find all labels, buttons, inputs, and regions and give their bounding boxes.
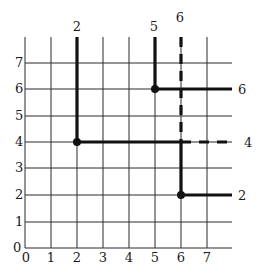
x-tick-4: 4: [125, 250, 133, 265]
y-tick-2: 2: [15, 187, 23, 202]
x-tick-0: 0: [22, 250, 30, 265]
x-tick-7: 7: [203, 250, 211, 265]
top-label-5: 5: [150, 19, 158, 34]
x-tick-5: 5: [151, 250, 159, 265]
right-label-2: 2: [238, 188, 246, 203]
path-labels: 2 5 6 6 4 2: [73, 10, 252, 203]
y-tick-7: 7: [15, 55, 23, 70]
node-6-2: [177, 191, 185, 199]
node-2-4: [73, 138, 81, 146]
x-axis-labels: 0 1 2 3 4 5 6 7: [22, 250, 211, 265]
top-label-2: 2: [73, 19, 81, 34]
top-label-6: 6: [176, 10, 184, 25]
y-tick-1: 1: [15, 214, 23, 229]
x-tick-1: 1: [47, 250, 55, 265]
x-tick-6: 6: [177, 250, 185, 265]
x-tick-2: 2: [73, 250, 81, 265]
node-5-6: [151, 85, 159, 93]
grid-diagram: 0 1 2 3 4 5 6 7 0 1 2 3 4 5 6 7 2: [0, 0, 263, 273]
y-tick-4: 4: [15, 134, 23, 149]
x-tick-3: 3: [99, 250, 107, 265]
right-label-6: 6: [238, 82, 246, 97]
y-axis-labels: 0 1 2 3 4 5 6 7: [13, 55, 23, 255]
y-tick-3: 3: [15, 160, 23, 175]
right-label-4: 4: [244, 135, 252, 150]
y-tick-0: 0: [13, 240, 21, 255]
y-tick-5: 5: [15, 108, 23, 123]
y-tick-6: 6: [15, 81, 23, 96]
